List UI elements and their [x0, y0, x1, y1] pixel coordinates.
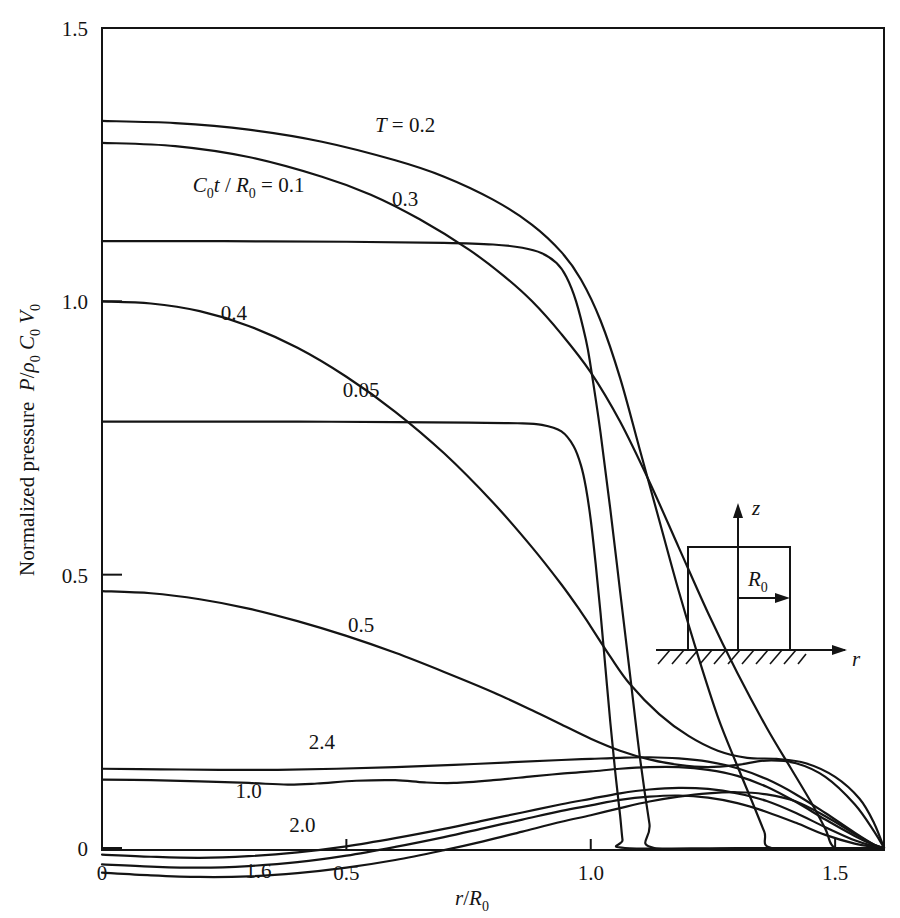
y-axis-ticks — [102, 28, 122, 848]
y-axis-title-c-sub: 0 — [28, 329, 43, 336]
inset-r-label: r — [852, 647, 861, 671]
curve-label-2.0: 2.0 — [289, 813, 315, 837]
y-axis-title-p: P — [15, 378, 39, 392]
svg-text:Normalized pressure P/ρ0 C0 V: Normalized pressure P/ρ0 C0 V0 — [15, 304, 43, 576]
x-tick-label-1: 0.5 — [333, 861, 359, 885]
curve-0.3 — [102, 143, 884, 850]
data-curves — [102, 121, 884, 877]
y-tick-label-3: 1.5 — [62, 17, 88, 41]
x-axis-title-denom-sub: 0 — [482, 899, 489, 914]
figure-container: 00.51.01.5 00.51.01.5 0.05C0t / R0 = 0.1… — [0, 0, 900, 918]
inset-radius-label-var: R — [747, 567, 761, 591]
y-axis-title-c: C — [15, 335, 39, 350]
curve-label-0.5: 0.5 — [348, 613, 374, 637]
curve-0.5 — [102, 591, 884, 848]
x-tick-label-2: 1.0 — [578, 861, 604, 885]
inset-z-arrowhead — [733, 503, 743, 518]
curve-2.4 — [102, 757, 884, 848]
inset-radius-label: R0 — [747, 567, 768, 595]
curve-label-0.2: T = 0.2 — [375, 113, 435, 137]
x-axis-title-denom: R — [468, 886, 482, 910]
y-tick-label-2: 1.0 — [62, 290, 88, 314]
curve-label-0.1: C0t / R0 = 0.1 — [193, 173, 305, 201]
y-tick-label-1: 0.5 — [62, 564, 88, 588]
curve-0.2 — [102, 121, 884, 849]
curve-label-0.05: 0.05 — [343, 378, 380, 402]
x-tick-label-3: 1.5 — [822, 861, 848, 885]
y-axis-title-text: Normalized pressure — [15, 402, 39, 576]
y-tick-label-0: 0 — [78, 837, 89, 861]
curve-label-1.6: 1.6 — [245, 859, 271, 883]
x-axis-tick-labels: 00.51.01.5 — [97, 861, 849, 885]
inset-radius-label-sub: 0 — [761, 580, 768, 595]
curve-label-2.4: 2.4 — [309, 730, 336, 754]
inset-z-label: z — [751, 496, 760, 520]
inset-r-arrowhead — [832, 645, 847, 655]
curve-0.05 — [102, 422, 884, 849]
inset-geometry-sketch: z r R0 — [656, 496, 861, 671]
inset-radius-arrowhead — [775, 593, 790, 603]
curve-0.4 — [102, 301, 884, 848]
y-axis-title-rho: ρ — [15, 362, 39, 373]
svg-text:r/R0: r/R0 — [455, 886, 489, 914]
pressure-profile-chart: 00.51.01.5 00.51.01.5 0.05C0t / R0 = 0.1… — [0, 0, 900, 918]
curve-label-1.0: 1.0 — [236, 779, 262, 803]
curve-label-0.4: 0.4 — [221, 301, 248, 325]
y-axis-tick-labels: 00.51.01.5 — [62, 17, 88, 861]
x-axis-title: r/R0 — [455, 886, 489, 914]
curve-1.6 — [102, 792, 884, 877]
y-axis-title-rho-sub: 0 — [28, 355, 43, 362]
y-axis-title-v-sub: 0 — [28, 304, 43, 311]
curve-label-0.3: 0.3 — [392, 187, 418, 211]
y-axis-title: Normalized pressure P/ρ0 C0 V0 — [15, 304, 43, 576]
